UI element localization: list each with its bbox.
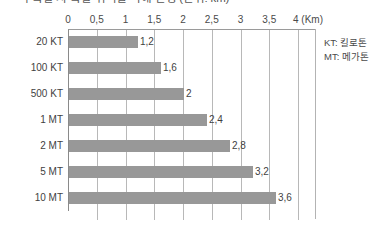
bar-value-label-5: 3,2 <box>253 165 269 179</box>
bar-5 <box>69 166 253 178</box>
x-tick-label-2: 1 <box>123 13 129 27</box>
bar-value-label-1: 1,6 <box>161 61 177 75</box>
x-tick-label-3: 1,5 <box>147 13 161 27</box>
bar-value-label-4: 2,8 <box>230 139 246 153</box>
category-label-4: 2 MT <box>0 133 63 159</box>
x-tick-label-6: 3 <box>238 13 244 27</box>
x-axis-tick-labels: 00,511,522,533,54 (Km) <box>0 13 390 27</box>
legend: KT: 킬로톤MT: 메가톤 <box>324 36 390 64</box>
category-label-6: 10 MT <box>0 185 63 211</box>
x-tick-label-4: 2 <box>180 13 186 27</box>
x-tick-label-7: 3,5 <box>262 13 276 27</box>
legend-entry-kt: KT: 킬로톤 <box>324 36 390 50</box>
bar-value-label-6: 3,6 <box>276 191 292 205</box>
bar-row: 1 MT2,4 <box>0 107 390 133</box>
x-tick-label-1: 0,5 <box>90 13 104 27</box>
bar-0 <box>69 36 138 48</box>
bar-row: 10 MT3,6 <box>0 185 390 211</box>
bar-1 <box>69 62 161 74</box>
category-label-1: 100 KT <box>0 55 63 81</box>
bar-6 <box>69 192 276 204</box>
bar-4 <box>69 140 230 152</box>
bar-value-label-2: 2 <box>184 87 192 101</box>
bar-row: 5 MT3,2 <box>0 159 390 185</box>
bar-row: 2 MT2,8 <box>0 133 390 159</box>
bar-chart: 핵 폭발 시 폭발 위력별 피해 반경 (단위: km) 00,511,522,… <box>0 0 390 230</box>
category-label-3: 1 MT <box>0 107 63 133</box>
category-label-2: 500 KT <box>0 81 63 107</box>
category-label-5: 5 MT <box>0 159 63 185</box>
x-tick-label-8: 4 (Km) <box>293 13 323 27</box>
x-tick-label-0: 0 <box>65 13 71 27</box>
chart-title: 핵 폭발 시 폭발 위력별 피해 반경 (단위: km) <box>18 0 318 5</box>
bar-value-label-0: 1,2 <box>138 35 154 49</box>
bar-row: 500 KT2 <box>0 81 390 107</box>
bar-2 <box>69 88 184 100</box>
bar-3 <box>69 114 207 126</box>
legend-entry-mt: MT: 메가톤 <box>324 50 390 64</box>
category-label-0: 20 KT <box>0 29 63 55</box>
x-tick-label-5: 2,5 <box>205 13 219 27</box>
bar-value-label-3: 2,4 <box>207 113 223 127</box>
